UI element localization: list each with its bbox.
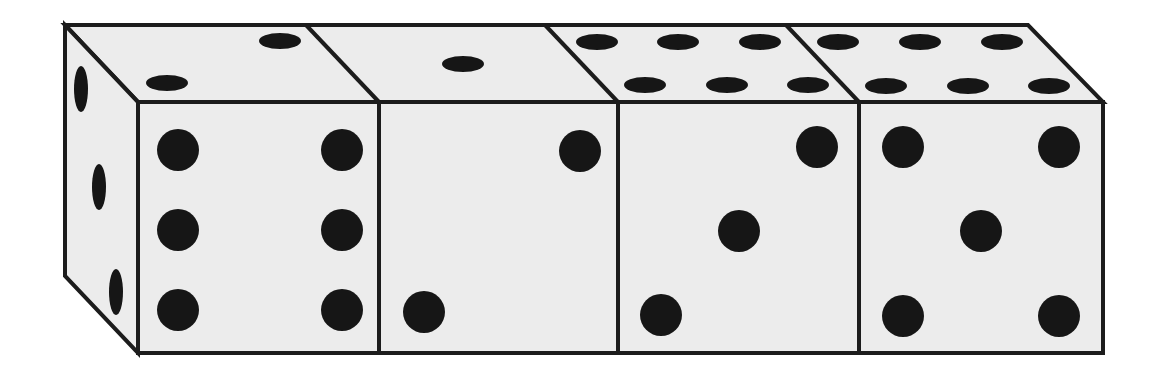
dice-diagram: Four dice in a row [0,0,1152,371]
dice-illustration [0,0,1152,371]
die-2-top-pips [442,56,484,72]
